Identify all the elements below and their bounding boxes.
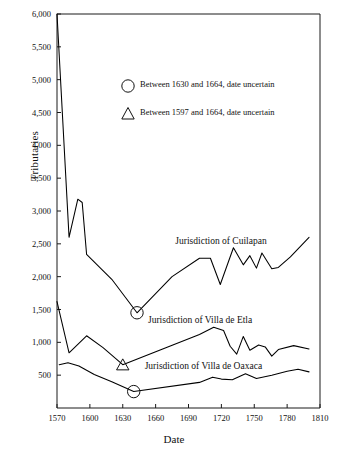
x-tick-label: 1600 <box>81 413 98 423</box>
chart-series <box>57 14 309 392</box>
x-tick-label: 1720 <box>213 413 230 423</box>
y-tick-label: 2,500 <box>32 239 51 249</box>
series-annotation-label: Jurisdiction of Villa de Oaxaca <box>145 361 262 371</box>
series-annotation-label: Jurisdiction of Cuilapan <box>175 236 266 246</box>
y-tick-label: 5,000 <box>32 75 51 85</box>
x-tick-label: 1570 <box>49 413 66 423</box>
y-tick-label: 1,000 <box>32 337 51 347</box>
y-tick-label: 6,000 <box>32 9 51 19</box>
chart-plot-area: 5001,0001,5002,0002,5003,0003,5004,0004,… <box>0 0 348 459</box>
x-axis-title: Date <box>0 433 348 445</box>
legend-item-label: Between 1597 and 1664, date uncertain <box>140 107 275 117</box>
y-axis-title: Tributaries <box>28 96 40 216</box>
x-tick-label: 1660 <box>147 413 164 423</box>
chart-point-markers <box>117 307 144 398</box>
y-tick-label: 2,000 <box>32 272 51 282</box>
x-tick-label: 1780 <box>279 413 296 423</box>
legend-triangle-icon <box>122 108 134 120</box>
x-tick-label: 1750 <box>246 413 263 423</box>
chart-legend-markers <box>122 80 134 119</box>
x-tick-label: 1630 <box>114 413 131 423</box>
y-tick-label: 500 <box>38 370 51 380</box>
legend-circle-icon <box>122 80 134 92</box>
series-line <box>57 14 309 313</box>
chart-container: 5001,0001,5002,0002,5003,0003,5004,0004,… <box>0 0 348 459</box>
y-tick-label: 5,500 <box>32 42 51 52</box>
x-tick-label: 1810 <box>312 413 329 423</box>
x-tick-label: 1690 <box>180 413 197 423</box>
y-tick-label: 1,500 <box>32 305 51 315</box>
series-line <box>57 302 309 365</box>
legend-item-label: Between 1630 and 1664, date uncertain <box>140 79 275 89</box>
series-annotation-label: Jurisdiction of Villa de Etla <box>148 315 252 325</box>
